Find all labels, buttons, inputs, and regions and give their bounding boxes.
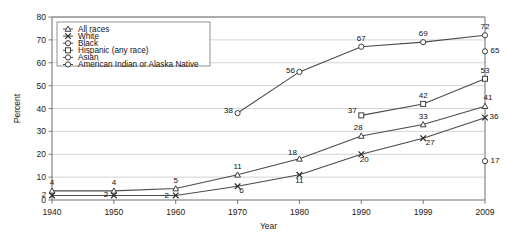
- datapoint-label-2-0: 38: [224, 106, 233, 115]
- datapoint-label-1-5: 20: [360, 155, 369, 164]
- legend-marker-5: [65, 62, 70, 67]
- datapoint-label-0-7: 41: [484, 93, 493, 102]
- x-tick-label-1980: 1980: [290, 207, 309, 217]
- datapoint-3-2: [483, 76, 488, 81]
- datapoint-label-5-0: 17: [491, 156, 500, 165]
- datapoint-label-1-0: 2: [42, 190, 47, 199]
- datapoint-label-1-7: 36: [490, 112, 499, 121]
- datapoint-label-3-0: 37: [348, 106, 357, 115]
- x-tick-label-1970: 1970: [228, 207, 247, 217]
- y-tick-label-70: 70: [37, 35, 47, 45]
- x-axis-title: Year: [260, 221, 277, 231]
- x-tick-label-1999: 1999: [414, 207, 433, 217]
- datapoint-label-3-1: 42: [419, 91, 428, 100]
- datapoint-3-0: [359, 113, 364, 118]
- y-tick-label-30: 30: [37, 126, 47, 136]
- x-tick-label-2009: 2009: [476, 207, 495, 217]
- y-tick-label-60: 60: [37, 58, 47, 68]
- datapoint-4-0: [482, 49, 487, 54]
- series-line-1: [52, 118, 485, 196]
- datapoint-label-0-1: 4: [112, 178, 117, 187]
- datapoint-label-0-4: 18: [288, 148, 297, 157]
- y-tick-label-50: 50: [37, 81, 47, 91]
- datapoint-label-0-2: 5: [173, 176, 178, 185]
- datapoint-2-2: [359, 44, 364, 49]
- datapoint-0-7: [482, 103, 488, 108]
- y-tick-label-80: 80: [37, 12, 47, 22]
- x-tick-label-1940: 1940: [43, 207, 62, 217]
- y-axis-title: Percent: [12, 93, 22, 123]
- legend-marker-3: [66, 48, 71, 53]
- datapoint-5-0: [482, 159, 487, 164]
- datapoint-2-4: [482, 33, 487, 38]
- datapoint-label-0-6: 33: [419, 112, 428, 121]
- datapoint-label-2-1: 56: [286, 66, 295, 75]
- datapoint-label-0-5: 28: [354, 123, 363, 132]
- datapoint-label-4-0: 65: [491, 46, 500, 55]
- legend-marker-2: [65, 41, 70, 46]
- datapoint-label-1-2: 2: [164, 191, 169, 200]
- datapoint-label-1-4: 11: [295, 176, 304, 185]
- x-tick-label-1960: 1960: [166, 207, 185, 217]
- legend-label-5: American Indian or Alaska Native: [78, 60, 199, 69]
- datapoint-label-1-3: 6: [239, 186, 244, 195]
- x-tick-label-1990: 1990: [352, 207, 371, 217]
- y-tick-label-10: 10: [37, 172, 47, 182]
- datapoint-label-1-6: 27: [426, 138, 435, 147]
- datapoint-2-1: [297, 69, 302, 74]
- datapoint-3-1: [421, 101, 426, 106]
- datapoint-label-2-4: 72: [481, 22, 490, 31]
- datapoint-2-0: [235, 110, 240, 115]
- line-chart-canvas: 0102030405060708019401950196019701980199…: [0, 0, 508, 239]
- y-tick-label-20: 20: [37, 149, 47, 159]
- datapoint-2-3: [421, 40, 426, 45]
- datapoint-label-0-3: 11: [233, 162, 242, 171]
- chart-figure: 0102030405060708019401950196019701980199…: [0, 0, 508, 239]
- y-tick-label-40: 40: [37, 104, 47, 114]
- datapoint-label-1-1: 2: [104, 190, 109, 199]
- datapoint-label-2-2: 67: [357, 34, 366, 43]
- x-tick-label-1950: 1950: [104, 207, 123, 217]
- datapoint-label-3-2: 53: [481, 66, 490, 75]
- datapoint-label-2-3: 69: [419, 29, 428, 38]
- legend-marker-4: [65, 55, 70, 60]
- datapoint-label-0-0: 4: [50, 178, 55, 187]
